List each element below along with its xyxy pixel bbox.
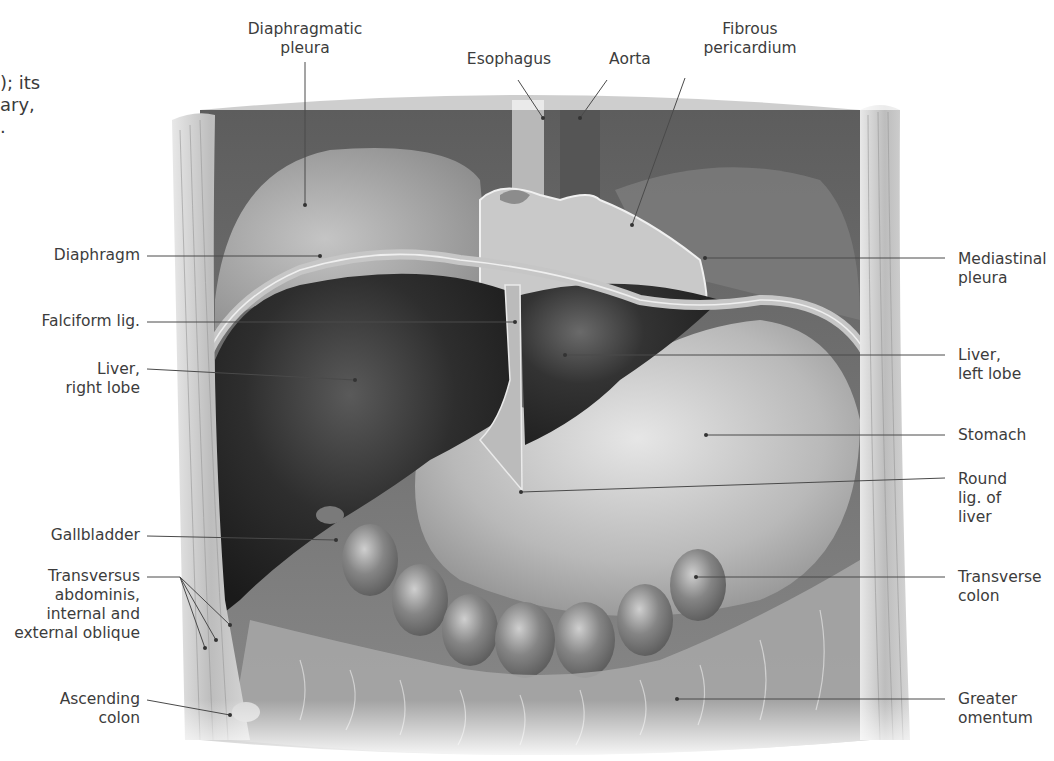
label-round-lig-of-liver: Round lig. of liver bbox=[958, 470, 1007, 527]
label-diaphragm: Diaphragm bbox=[54, 246, 140, 265]
anatomy-illustration bbox=[0, 0, 1054, 761]
label-gallbladder: Gallbladder bbox=[51, 526, 140, 545]
aorta-shape bbox=[560, 100, 600, 200]
label-falciform-lig: Falciform lig. bbox=[41, 312, 140, 331]
label-liver-left-lobe: Liver, left lobe bbox=[958, 346, 1021, 384]
label-mediastinal-pleura: Mediastinal pleura bbox=[958, 250, 1047, 288]
right-body-wall bbox=[860, 105, 910, 740]
label-ascending-colon: Ascending colon bbox=[60, 690, 140, 728]
label-liver-right-lobe: Liver, right lobe bbox=[65, 360, 140, 398]
gallbladder-shape bbox=[316, 506, 344, 524]
label-aorta: Aorta bbox=[600, 50, 660, 69]
label-greater-omentum: Greater omentum bbox=[958, 690, 1033, 728]
label-esophagus: Esophagus bbox=[454, 50, 564, 69]
label-diaphragmatic-pleura: Diaphragmatic pleura bbox=[245, 20, 365, 58]
label-transversus-abdominis: Transversus abdominis, internal and exte… bbox=[14, 567, 140, 643]
label-stomach: Stomach bbox=[958, 426, 1026, 445]
label-fibrous-pericardium: Fibrous pericardium bbox=[695, 20, 805, 58]
label-transverse-colon: Transverse colon bbox=[958, 568, 1042, 606]
